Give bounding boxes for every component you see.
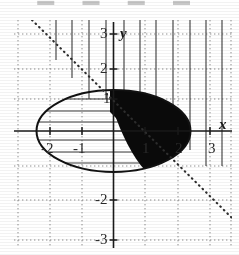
x-tick-label-minus-2: -2 [41,141,54,156]
y-axis-label: y [120,26,127,41]
x-axis-label: x [219,117,227,132]
y-tick-label-1: 1 [103,91,111,106]
x-tick-label-minus-1: -1 [73,141,86,156]
x-tick-label-3: 3 [208,141,216,156]
y-tick-label-minus-3: -3 [95,232,108,247]
y-tick-label-minus-2: -2 [95,192,108,207]
y-tick-label-3: 3 [100,26,108,41]
x-tick-label-2: 2 [175,141,183,156]
x-tick-label-1: 1 [142,141,150,156]
graph-figure: ▬ ▬ ▬ ▬ [0,0,239,255]
y-tick-label-2: 2 [100,61,108,76]
diagonal-dotted-line [32,20,232,218]
